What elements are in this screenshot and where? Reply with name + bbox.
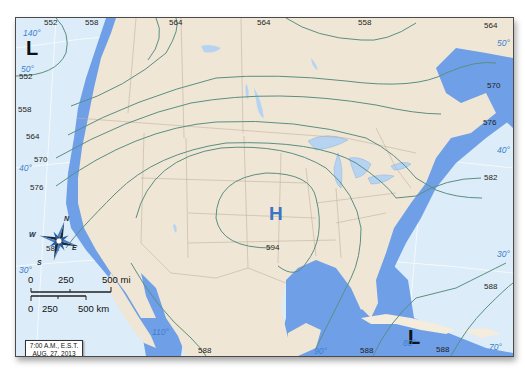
weather-map: L H L 552 558 564 564 558 564 552 558 56… — [15, 17, 514, 357]
contour-label: 588 — [198, 347, 211, 355]
timestamp-box: 7:00 A.M., E.S.T. AUG. 27, 2013 — [25, 340, 83, 357]
scale-km-250: 250 — [42, 303, 58, 314]
timestamp-date: AUG. 27, 2013 — [27, 350, 81, 357]
low-pressure-pacific: L — [26, 38, 38, 58]
contour-label: 558 — [85, 19, 98, 27]
compass-east: E — [72, 244, 77, 251]
latitude-label: 50° — [497, 39, 510, 48]
contour-label: 588 — [360, 347, 373, 355]
contour-label: 564 — [26, 133, 39, 141]
contour-label: 552 — [19, 73, 32, 81]
scale-bar: 0 250 500 mi 0 250 500 km — [30, 274, 120, 324]
latitude-label: 40° — [19, 164, 32, 173]
contour-label: 576 — [483, 119, 496, 127]
latitude-label: 30° — [497, 250, 510, 259]
scale-km-0: 0 — [28, 303, 33, 314]
contour-label: 552 — [44, 19, 57, 27]
compass-star-icon — [36, 218, 82, 264]
compass-south: S — [37, 259, 42, 266]
contour-label: 570 — [487, 82, 500, 90]
scale-km-500: 500 km — [78, 303, 109, 314]
scale-mi-250: 250 — [58, 274, 74, 285]
contour-label: 558 — [18, 106, 31, 114]
contour-label: 588 — [484, 283, 497, 291]
contour-label: 576 — [30, 184, 43, 192]
latitude-label: 40° — [497, 146, 510, 155]
contour-label: 588 — [436, 346, 449, 354]
contour-label: 564 — [169, 19, 182, 27]
contour-label: 594 — [266, 244, 279, 252]
compass-rose: N E W S — [36, 218, 82, 264]
contour-label: 564 — [484, 22, 497, 30]
longitude-label: 90° — [314, 347, 327, 356]
compass-west: W — [29, 231, 36, 238]
scale-mi-500: 500 mi — [102, 274, 131, 285]
latitude-label: 50° — [21, 65, 34, 74]
compass-north: N — [64, 215, 69, 222]
longitude-label: 80° — [403, 339, 416, 348]
contour-label: 582 — [484, 174, 497, 182]
timestamp-time: 7:00 A.M., E.S.T. — [27, 342, 81, 350]
scale-mi-0: 0 — [28, 274, 33, 285]
longitude-label: 70° — [489, 343, 502, 352]
longitude-label: 110° — [152, 328, 169, 337]
high-pressure-central: H — [269, 204, 283, 223]
contour-label: 564 — [257, 19, 270, 27]
contour-label: 570 — [34, 156, 47, 164]
longitude-label: 140° — [23, 29, 41, 38]
contour-label: 558 — [358, 19, 371, 27]
